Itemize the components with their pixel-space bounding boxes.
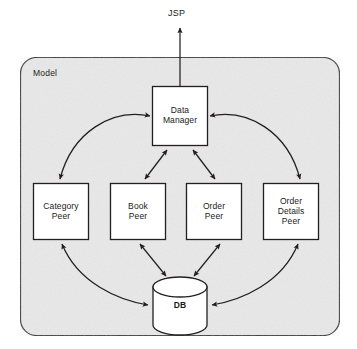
node-category-peer-shape [34, 184, 89, 240]
node-order-peer-shape [187, 184, 242, 240]
jsp-label: JSP [168, 8, 185, 18]
model-architecture-diagram: JSP Model Data Manager Category Peer Boo… [0, 0, 357, 349]
node-order-details-peer-shape [264, 184, 319, 240]
diagram-canvas [0, 0, 357, 349]
model-container-label: Model [33, 68, 57, 78]
node-book-peer-shape [111, 184, 166, 240]
node-data-manager-shape [153, 87, 208, 146]
node-label-db: DB [153, 300, 207, 310]
